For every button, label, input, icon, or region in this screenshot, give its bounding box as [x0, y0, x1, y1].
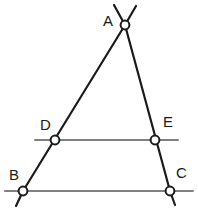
vertex-node-d: [51, 136, 60, 145]
line-layer: [5, 25, 193, 191]
vertex-node-a: [121, 21, 130, 30]
geometry-canvas: [0, 0, 198, 216]
vertex-node-c: [166, 187, 175, 196]
vertex-label-b: B: [9, 167, 19, 182]
triangle-side-ac: [125, 25, 170, 191]
vertex-node-e: [151, 136, 160, 145]
geometry-figure: A D E B C: [0, 0, 198, 216]
vertex-label-d: D: [40, 117, 51, 132]
extension-layer: [16, 5, 175, 206]
vertex-label-a: A: [103, 13, 113, 28]
vertex-label-c: C: [176, 165, 187, 180]
triangle-side-ab: [23, 25, 125, 191]
vertex-node-b: [19, 187, 28, 196]
vertex-node-layer: [19, 21, 175, 196]
vertex-label-e: E: [163, 114, 173, 129]
